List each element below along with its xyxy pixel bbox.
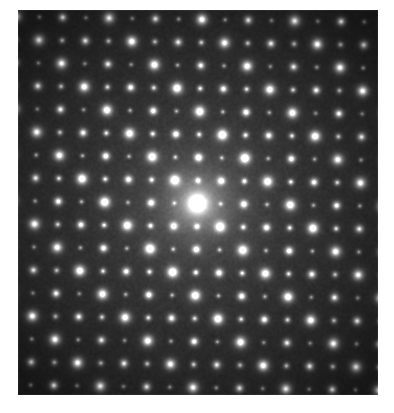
diffraction-pattern-canvas: [18, 10, 378, 395]
figure-description: Selected-area electron diffraction patte…: [0, 0, 1, 1]
diffraction-figure: Selected-area electron diffraction patte…: [0, 0, 394, 413]
diffraction-pattern-image: [18, 10, 378, 395]
